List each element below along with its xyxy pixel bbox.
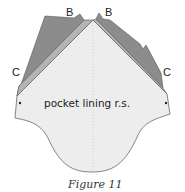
label-c-right: C (163, 66, 171, 78)
right-dot-marker (165, 102, 167, 104)
label-c-left: C (12, 66, 20, 78)
lining-label: pocket lining r.s. (44, 97, 130, 109)
figure-caption: Figure 11 (67, 178, 123, 191)
pocket-diagram: B B C C pocket lining r.s. Figure 11 (0, 0, 185, 192)
label-b-left: B (66, 6, 73, 18)
left-dot-marker (19, 102, 21, 104)
label-b-right: B (105, 6, 112, 18)
